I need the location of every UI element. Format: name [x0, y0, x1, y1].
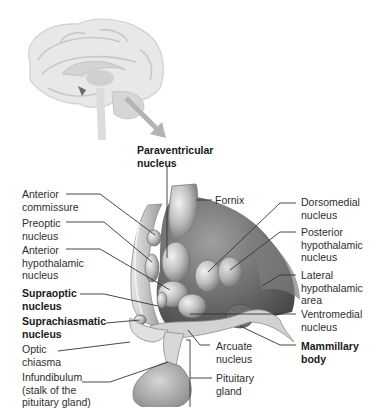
brain-inset	[29, 19, 166, 140]
label-arcuate-nucleus: Arcuate nucleus	[216, 340, 252, 365]
label-lateral-hypothalamic-area: Lateral hypothalamic area	[301, 269, 363, 307]
label-anterior-commissure: Anterior commissure	[22, 188, 79, 213]
label-fornix: Fornix	[215, 194, 244, 207]
label-dorsomedial-nucleus: Dorsomedial nucleus	[301, 196, 360, 221]
hypothalamus-illustration	[130, 184, 300, 407]
label-preoptic-nucleus: Preoptic nucleus	[22, 217, 61, 242]
label-posterior-hypothalamic-nucleus: Posterior hypothalamic nucleus	[301, 226, 363, 264]
label-ventromedial-nucleus: Ventromedial nucleus	[301, 308, 362, 333]
label-mammillary-body: Mammillary body	[301, 340, 359, 365]
label-suprachiasmatic-nucleus: Suprachiasmatic nucleus	[22, 315, 106, 340]
label-pituitary-gland: Pituitary gland	[216, 372, 254, 397]
label-supraoptic-nucleus: Supraoptic nucleus	[22, 287, 77, 312]
label-optic-chiasma: Optic chiasma	[22, 343, 61, 368]
label-anterior-hypothalamic-nucleus: Anterior hypothalamic nucleus	[22, 244, 84, 282]
label-infundibulum: Infundibulum (stalk of the pituitary gla…	[22, 371, 91, 409]
label-paraventricular-nucleus: Paraventricular nucleus	[137, 144, 213, 169]
